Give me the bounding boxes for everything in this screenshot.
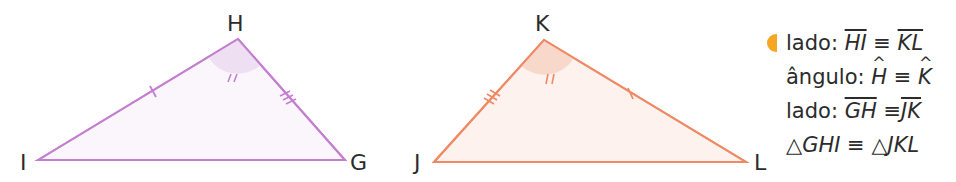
statement-angle: ângulo: H ≡ K	[786, 64, 932, 90]
vertex-label-k: K	[535, 11, 550, 36]
triangle-jkl-shape	[434, 40, 746, 162]
statement-congruence: △GHI ≡ △JKL	[786, 132, 919, 158]
segment-jk: JK	[901, 99, 921, 123]
triangle-ghi	[38, 39, 345, 160]
triangle-jkl-label: △JKL	[871, 133, 919, 157]
vertex-label-j: J	[412, 150, 421, 175]
vertex-label-g: G	[350, 150, 367, 175]
vertex-label-l: L	[754, 150, 767, 175]
angle-h: H	[871, 64, 887, 90]
angle-k: K	[918, 64, 932, 90]
vertex-label-i: I	[20, 150, 27, 175]
segment-gh: GH	[845, 99, 877, 123]
statement-side-2: lado: GH ≡JK	[786, 98, 921, 124]
triangle-ghi-shape	[38, 39, 345, 160]
segment-hi: HI	[845, 31, 867, 55]
statement-side-1: lado: HI ≡ KL	[786, 30, 923, 56]
triangle-jkl	[434, 40, 746, 162]
triangle-ghi-label: △GHI	[786, 133, 840, 157]
vertex-label-h: H	[227, 11, 244, 36]
